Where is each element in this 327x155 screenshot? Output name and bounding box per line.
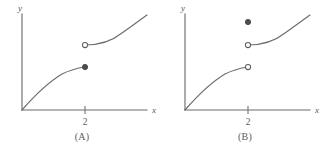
lower-branch-curve-a: [22, 67, 85, 110]
panel-b-plot: y x 2: [163, 0, 327, 132]
y-axis-label-a: y: [17, 3, 22, 13]
x-axis-label-a: x: [151, 105, 156, 115]
panel-a-plot: y x 2: [0, 0, 164, 132]
panel-a-caption: (A): [0, 131, 164, 142]
panel-b-caption: (B): [163, 131, 327, 142]
upper-branch-curve-b: [248, 15, 310, 45]
chart-panel-a: y x 2 (A): [0, 0, 164, 155]
y-axis-label-b: y: [180, 3, 185, 13]
lower-branch-open-point-b: [245, 64, 250, 69]
x-tick-label-2-a: 2: [83, 117, 88, 127]
x-axis-label-b: x: [314, 105, 319, 115]
x-tick-label-2-b: 2: [246, 117, 251, 127]
isolated-closed-point-b: [245, 19, 250, 24]
chart-panel-b: y x 2 (B): [163, 0, 327, 155]
upper-branch-open-point-b: [245, 42, 250, 47]
upper-branch-open-point-a: [82, 42, 87, 47]
lower-branch-curve-b: [185, 67, 248, 110]
figure-root: y x 2 (A) y x 2 (B): [0, 0, 327, 155]
lower-branch-closed-point-a: [82, 64, 87, 69]
upper-branch-curve-a: [85, 15, 147, 45]
